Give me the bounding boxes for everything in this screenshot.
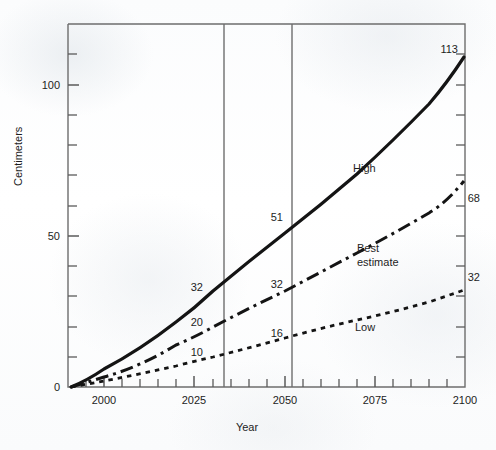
x-tick-labels: 2000 2025 2050 2075 2100 xyxy=(92,394,477,406)
curve-label-best-line1: Best xyxy=(357,242,379,254)
line-chart-plot: 100 50 0 2000 2025 2050 2075 2100 High B… xyxy=(0,0,496,450)
y-tick-labels: 100 50 0 xyxy=(42,79,60,393)
y-tick-label-50: 50 xyxy=(48,230,60,242)
x-axis-ticks xyxy=(86,376,447,387)
value-label-low-2030: 10 xyxy=(191,346,203,358)
y-tick-label-0: 0 xyxy=(54,381,60,393)
value-label-best-2100: 68 xyxy=(468,192,480,204)
value-label-best-2050: 32 xyxy=(271,278,283,290)
value-label-low-2050: 16 xyxy=(271,327,283,339)
x-tick-label-2050: 2050 xyxy=(273,394,297,406)
x-tick-label-2025: 2025 xyxy=(182,394,206,406)
series-high-path xyxy=(71,57,464,387)
x-tick-label-2075: 2075 xyxy=(363,394,387,406)
series-best-path xyxy=(71,181,464,387)
right-edge-ticks xyxy=(456,54,465,357)
value-label-low-2100: 32 xyxy=(468,271,480,283)
curve-label-low: Low xyxy=(355,321,375,333)
value-label-best-2030: 20 xyxy=(191,316,203,328)
x-tick-label-2000: 2000 xyxy=(92,394,116,406)
x-tick-label-2100: 2100 xyxy=(453,394,477,406)
y-axis-ticks xyxy=(68,54,79,357)
y-tick-label-100: 100 xyxy=(42,79,60,91)
curve-label-high: High xyxy=(353,162,376,174)
value-label-high-2030: 32 xyxy=(191,281,203,293)
x-axis-title: Year xyxy=(236,421,258,433)
y-axis-title: Centimeters xyxy=(12,127,24,186)
plot-frame xyxy=(68,24,465,387)
curve-name-labels: High Best estimate Low xyxy=(353,162,399,333)
series-low-path xyxy=(71,290,464,387)
sea-level-rise-figure: 100 50 0 2000 2025 2050 2075 2100 High B… xyxy=(0,0,496,450)
value-label-high-2100: 113 xyxy=(440,43,458,55)
curve-label-best-line2: estimate xyxy=(357,256,399,268)
value-label-high-2050: 51 xyxy=(271,211,283,223)
value-labels: 32 20 10 51 32 16 113 68 32 xyxy=(191,43,480,358)
